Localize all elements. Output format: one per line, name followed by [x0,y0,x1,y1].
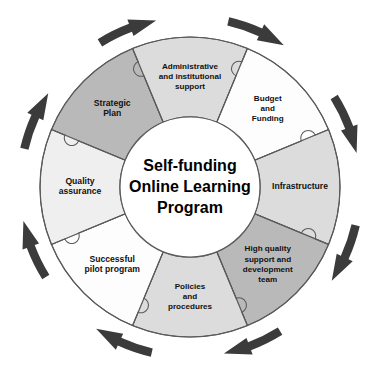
cycle-arrow-4 [332,224,360,281]
puzzle-wheel-svg: StrategicPlanAdministrativeand instituti… [0,0,378,368]
cycle-arrow-1 [98,20,156,47]
cycle-arrow-7 [23,221,50,279]
segment-label-successful-pilot-program: Successfulpilot program [85,254,141,274]
cycle-arrow-5 [224,328,282,355]
cycle-arrow-6 [96,329,153,357]
cycle-arrow-0 [20,93,48,150]
segment-label-infrastructure: Infrastructure [272,181,328,191]
cycle-diagram: StrategicPlanAdministrativeand instituti… [0,0,378,368]
cycle-arrow-3 [331,95,358,153]
cycle-arrow-2 [227,17,284,45]
